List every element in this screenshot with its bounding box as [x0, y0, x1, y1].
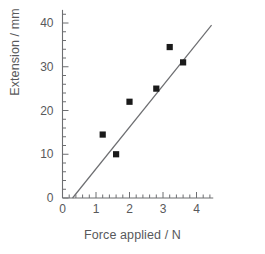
data-point: [180, 59, 186, 65]
x-tick-label: 3: [160, 202, 167, 216]
data-point: [167, 44, 173, 50]
x-axis-title: Force applied / N: [0, 228, 265, 242]
data-points: [100, 44, 187, 157]
y-tick-label: 0: [0, 191, 54, 205]
best-fit-line: [73, 25, 212, 198]
data-point: [100, 131, 106, 137]
x-tick-label: 2: [126, 202, 133, 216]
trend-line: [73, 25, 212, 198]
y-tick-label: 10: [0, 147, 54, 161]
axes: [63, 10, 214, 198]
x-tick-label: 1: [93, 202, 100, 216]
x-tick-label: 4: [193, 202, 200, 216]
data-point: [113, 151, 119, 157]
chart-container: 01234010203040 Force applied / N Extensi…: [0, 0, 265, 254]
data-point: [126, 99, 132, 105]
x-tick-label: 0: [59, 202, 66, 216]
data-point: [153, 86, 159, 92]
y-axis-title: Extension / mm: [8, 0, 22, 122]
axis-ticks: [63, 14, 210, 198]
